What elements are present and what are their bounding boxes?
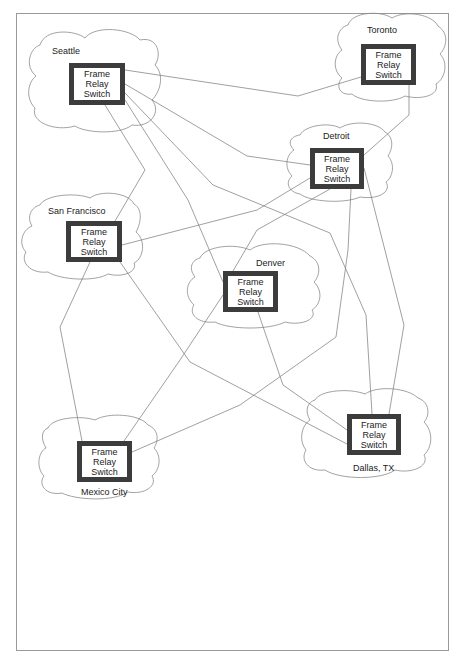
switch-label-line: Frame (81, 227, 107, 237)
switch-label-line: Frame (84, 69, 110, 79)
switch-label-line: Switch (237, 297, 264, 307)
link-seattle-dallas (125, 93, 372, 414)
link-seattle-detroit (125, 84, 310, 165)
link-denver-dallas (258, 312, 347, 430)
switch-label-line: Relay (239, 287, 262, 297)
switch-dallas: Frame Relay Switch (347, 414, 401, 455)
switch-label-line: Frame (375, 50, 401, 60)
switch-san-francisco: Frame Relay Switch (66, 221, 122, 262)
switch-label-line: Frame (324, 154, 350, 164)
city-label-detroit: Detroit (323, 131, 350, 141)
switch-label-line: Switch (375, 70, 402, 80)
switch-denver: Frame Relay Switch (223, 271, 278, 312)
switch-label-line: Frame (361, 420, 387, 430)
switch-label-line: Relay (82, 237, 105, 247)
link-seattle-denver (125, 100, 223, 282)
switch-label-line: Switch (81, 247, 108, 257)
city-label-san-francisco: San Francisco (48, 206, 106, 216)
switch-label-line: Relay (93, 457, 116, 467)
city-label-seattle: Seattle (52, 46, 80, 56)
city-label-denver: Denver (256, 258, 285, 268)
switch-label-line: Frame (91, 447, 117, 457)
switch-label-line: Switch (324, 174, 351, 184)
switch-seattle: Frame Relay Switch (69, 63, 125, 105)
link-detroit-sanfrancisco (122, 178, 310, 245)
switch-toronto: Frame Relay Switch (361, 44, 416, 85)
switch-mexico-city: Frame Relay Switch (77, 441, 132, 482)
link-sanfrancisco-mexicocity (60, 262, 90, 441)
switch-label-line: Frame (237, 277, 263, 287)
switch-label-line: Relay (85, 79, 108, 89)
link-toronto-detroit (364, 85, 409, 155)
switch-label-line: Relay (325, 164, 348, 174)
city-label-toronto: Toronto (367, 25, 397, 35)
city-label-mexico-city: Mexico City (81, 487, 128, 497)
switch-label-line: Switch (361, 440, 388, 450)
switch-label-line: Relay (377, 60, 400, 70)
city-label-dallas: Dallas, TX (353, 463, 394, 473)
switch-label-line: Relay (362, 430, 385, 440)
switch-detroit: Frame Relay Switch (310, 148, 364, 189)
switch-label-line: Switch (84, 89, 111, 99)
switch-label-line: Switch (91, 467, 118, 477)
